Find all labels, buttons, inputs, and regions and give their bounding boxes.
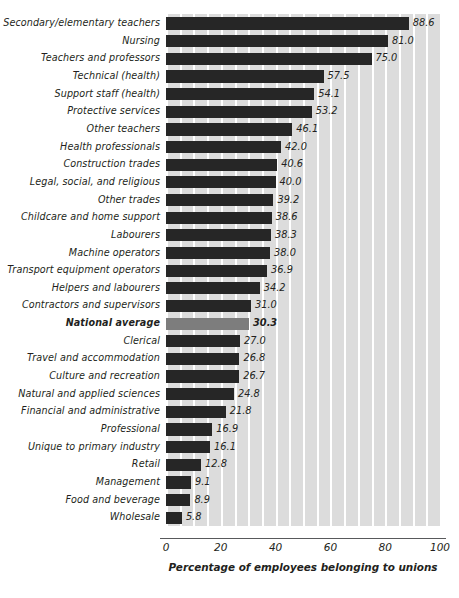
bar-row: Health professionals42.0 bbox=[0, 138, 459, 156]
x-tick-label: 100 bbox=[430, 541, 450, 553]
bar-row: Labourers38.3 bbox=[0, 226, 459, 244]
category-label: Helpers and labourers bbox=[0, 279, 160, 297]
bar-row: Teachers and professors75.0 bbox=[0, 49, 459, 67]
bar bbox=[166, 318, 249, 330]
bar bbox=[166, 247, 270, 259]
bar-value-label: 88.6 bbox=[413, 14, 435, 32]
bar bbox=[166, 88, 314, 100]
x-tick-label: 20 bbox=[214, 541, 227, 553]
bar bbox=[166, 335, 240, 347]
bar bbox=[166, 212, 272, 224]
category-label: Clerical bbox=[0, 332, 160, 350]
bar-value-label: 40.6 bbox=[281, 155, 303, 173]
bar-row: Wholesale5.8 bbox=[0, 508, 459, 526]
footer-ghost-text bbox=[240, 588, 450, 596]
bar-row: National average30.3 bbox=[0, 314, 459, 332]
bar-row: Other trades39.2 bbox=[0, 191, 459, 209]
category-label: Wholesale bbox=[0, 508, 160, 526]
union-membership-bar-chart: Secondary/elementary teachers88.6Nursing… bbox=[0, 0, 459, 598]
bar-value-label: 26.8 bbox=[243, 349, 265, 367]
category-label: Unique to primary industry bbox=[0, 438, 160, 456]
bar-value-label: 42.0 bbox=[285, 138, 307, 156]
bar-row: Secondary/elementary teachers88.6 bbox=[0, 14, 459, 32]
bar-value-label: 8.9 bbox=[194, 491, 210, 509]
bar-value-label: 39.2 bbox=[277, 191, 299, 209]
bar-value-label: 75.0 bbox=[376, 49, 398, 67]
bar-value-label: 16.9 bbox=[216, 420, 238, 438]
bar bbox=[166, 106, 312, 118]
bar bbox=[166, 159, 277, 171]
category-label: Other teachers bbox=[0, 120, 160, 138]
category-label: Childcare and home support bbox=[0, 208, 160, 226]
bar bbox=[166, 459, 201, 471]
category-label: Professional bbox=[0, 420, 160, 438]
category-label: Legal, social, and religious bbox=[0, 173, 160, 191]
bar-row: Unique to primary industry16.1 bbox=[0, 438, 459, 456]
bar bbox=[166, 441, 210, 453]
bar-row: Legal, social, and religious40.0 bbox=[0, 173, 459, 191]
bar-value-label: 16.1 bbox=[214, 438, 236, 456]
x-axis-title: Percentage of employees belonging to uni… bbox=[166, 561, 440, 573]
bar-row: Machine operators38.0 bbox=[0, 244, 459, 262]
category-label: Food and beverage bbox=[0, 491, 160, 509]
bar bbox=[166, 494, 190, 506]
category-label: Travel and accommodation bbox=[0, 349, 160, 367]
bar bbox=[166, 282, 260, 294]
category-label: Machine operators bbox=[0, 244, 160, 262]
category-label: Contractors and supervisors bbox=[0, 296, 160, 314]
category-label: Technical (health) bbox=[0, 67, 160, 85]
category-label: Other trades bbox=[0, 191, 160, 209]
category-label: Management bbox=[0, 473, 160, 491]
bar bbox=[166, 265, 267, 277]
bar-row: Contractors and supervisors31.0 bbox=[0, 296, 459, 314]
bar-value-label: 38.6 bbox=[276, 208, 298, 226]
bar bbox=[166, 476, 191, 488]
bar-value-label: 53.2 bbox=[316, 102, 338, 120]
x-tick-label: 0 bbox=[163, 541, 170, 553]
bar-value-label: 30.3 bbox=[253, 314, 277, 332]
bar-value-label: 40.0 bbox=[280, 173, 302, 191]
category-label: Natural and applied sciences bbox=[0, 385, 160, 403]
bar-row: Nursing81.0 bbox=[0, 32, 459, 50]
bar-value-label: 5.8 bbox=[186, 508, 202, 526]
bar-row: Childcare and home support38.6 bbox=[0, 208, 459, 226]
bar-value-label: 21.8 bbox=[230, 402, 252, 420]
bar-row: Culture and recreation26.7 bbox=[0, 367, 459, 385]
bar-value-label: 46.1 bbox=[296, 120, 318, 138]
category-label: Secondary/elementary teachers bbox=[0, 14, 160, 32]
bar-row: Other teachers46.1 bbox=[0, 120, 459, 138]
bar-row: Technical (health)57.5 bbox=[0, 67, 459, 85]
x-tick-label: 80 bbox=[379, 541, 392, 553]
bar-value-label: 12.8 bbox=[205, 455, 227, 473]
bar-value-label: 26.7 bbox=[243, 367, 265, 385]
bar-row: Food and beverage8.9 bbox=[0, 491, 459, 509]
category-label: Financial and administrative bbox=[0, 402, 160, 420]
bar-value-label: 34.2 bbox=[264, 279, 286, 297]
category-label: Nursing bbox=[0, 32, 160, 50]
bar bbox=[166, 423, 212, 435]
bar-value-label: 54.1 bbox=[318, 85, 340, 103]
category-label: Health professionals bbox=[0, 138, 160, 156]
category-label: Support staff (health) bbox=[0, 85, 160, 103]
bar bbox=[166, 370, 239, 382]
x-axis-tick-labels: 020406080100 bbox=[0, 541, 459, 557]
x-axis-line bbox=[160, 538, 446, 539]
bar-row: Protective services53.2 bbox=[0, 102, 459, 120]
bar bbox=[166, 176, 276, 188]
bar bbox=[166, 70, 324, 82]
bar-row: Transport equipment operators36.9 bbox=[0, 261, 459, 279]
bar-row: Helpers and labourers34.2 bbox=[0, 279, 459, 297]
bar bbox=[166, 300, 251, 312]
bar-value-label: 27.0 bbox=[244, 332, 266, 350]
bar bbox=[166, 53, 372, 65]
bar-value-label: 9.1 bbox=[195, 473, 211, 491]
bar bbox=[166, 406, 226, 418]
bar-row: Clerical27.0 bbox=[0, 332, 459, 350]
category-label: Retail bbox=[0, 455, 160, 473]
category-label: Protective services bbox=[0, 102, 160, 120]
bar-row: Travel and accommodation26.8 bbox=[0, 349, 459, 367]
bar bbox=[166, 123, 292, 135]
category-label: Teachers and professors bbox=[0, 49, 160, 67]
bar bbox=[166, 141, 281, 153]
bar-row: Retail12.8 bbox=[0, 455, 459, 473]
